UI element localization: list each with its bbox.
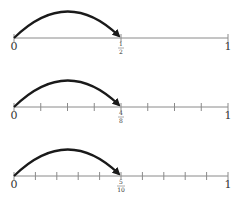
start-label: 0 bbox=[11, 109, 18, 122]
start-label: 0 bbox=[11, 40, 18, 53]
mark-denominator: 2 bbox=[119, 48, 123, 55]
jump-arrow bbox=[14, 80, 119, 107]
end-label: 1 bbox=[225, 40, 232, 53]
number-line-eighths: 0 1 4 8 bbox=[11, 80, 232, 124]
number-line-halves: 0 1 1 2 bbox=[11, 11, 232, 55]
number-line-diagram: 0 1 1 2 0 1 4 8 0 1 5 10 bbox=[0, 0, 240, 205]
jump-arrow bbox=[14, 149, 119, 176]
mark-numerator: 4 bbox=[119, 109, 123, 116]
jump-arrow bbox=[14, 11, 119, 38]
end-label: 1 bbox=[225, 109, 232, 122]
mark-numerator: 5 bbox=[119, 178, 123, 185]
end-label: 1 bbox=[225, 178, 232, 191]
mark-denominator: 10 bbox=[117, 186, 125, 193]
start-label: 0 bbox=[11, 178, 18, 191]
mark-numerator: 1 bbox=[119, 40, 123, 47]
number-line-tenths: 0 1 5 10 bbox=[11, 149, 232, 193]
mark-denominator: 8 bbox=[119, 117, 123, 124]
